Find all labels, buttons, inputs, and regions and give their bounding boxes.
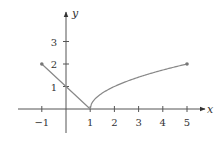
x-tick-label: −1: [34, 117, 49, 128]
x-tick-label: 3: [135, 117, 141, 128]
y-tick-label: 2: [51, 59, 57, 70]
series-line: [90, 64, 187, 109]
x-tick-label: 1: [87, 117, 93, 128]
endpoint-dot: [40, 62, 44, 66]
x-axis-label: x: [207, 103, 214, 116]
data-series: [40, 62, 189, 109]
x-tick-label: 2: [111, 117, 117, 128]
y-axis-label: y: [71, 7, 79, 20]
endpoint-dot: [185, 62, 189, 66]
x-tick-label: 4: [160, 117, 166, 128]
function-graph: x y −112345 123: [0, 0, 223, 142]
y-tick-label: 1: [51, 82, 57, 93]
y-tick-label: 3: [51, 37, 57, 48]
x-tick-label: 5: [184, 117, 190, 128]
